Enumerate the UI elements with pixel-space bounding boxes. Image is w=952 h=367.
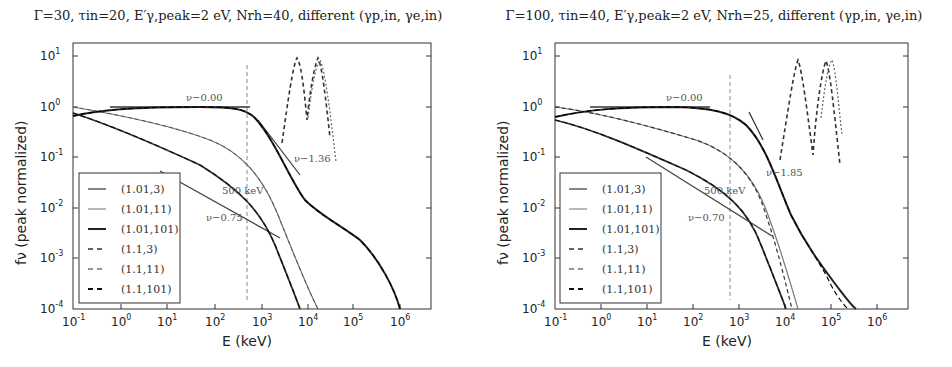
right-ann-500kev: 500 keV — [704, 185, 746, 196]
left-x-ticks: 10-1 100 101 102 103 104 105 106 — [62, 313, 410, 329]
left-legend: (1.01,3) (1.01,11) (1.01,101) (1.1,3) (1… — [79, 173, 180, 303]
right-x-axis-label: E (keV) — [702, 333, 752, 349]
svg-text:100: 100 — [522, 98, 542, 114]
left-x-axis-label: E (keV) — [222, 333, 272, 349]
svg-text:10-1: 10-1 — [544, 313, 567, 329]
svg-text:105: 105 — [821, 313, 841, 329]
svg-text:10-4: 10-4 — [40, 300, 63, 316]
svg-text:(1.1,3): (1.1,3) — [121, 243, 158, 256]
svg-text:(1.1,101): (1.1,101) — [121, 283, 172, 296]
left-y-axis-label: fν (peak normalized) — [13, 120, 29, 265]
left-chart-panel: Γ=30, τin=20, E′γ,peak=2 eV, Nrh=40, dif… — [0, 0, 476, 367]
svg-text:(1.01,101): (1.01,101) — [602, 223, 660, 236]
svg-text:101: 101 — [522, 47, 542, 63]
svg-text:(1.1,11): (1.1,11) — [121, 263, 165, 276]
svg-text:10-3: 10-3 — [40, 249, 63, 265]
left-ann-mid: ν−0.75 — [206, 212, 243, 223]
svg-text:(1.01,11): (1.01,11) — [121, 203, 172, 216]
svg-text:106: 106 — [867, 313, 887, 329]
svg-text:101: 101 — [637, 313, 657, 329]
svg-text:10-1: 10-1 — [62, 313, 85, 329]
svg-text:10-2: 10-2 — [522, 199, 545, 215]
right-y-axis-label: fν (peak normalized) — [495, 120, 511, 265]
svg-text:103: 103 — [252, 313, 272, 329]
svg-text:100: 100 — [40, 98, 60, 114]
svg-text:101: 101 — [157, 313, 177, 329]
svg-text:(1.01,3): (1.01,3) — [602, 183, 646, 196]
right-chart-svg: 101 100 10-1 10-2 10-3 10-4 10-1 100 101… — [476, 0, 952, 367]
svg-text:10-3: 10-3 — [522, 249, 545, 265]
svg-text:101: 101 — [40, 47, 60, 63]
svg-text:(1.01,3): (1.01,3) — [121, 183, 165, 196]
svg-text:104: 104 — [298, 313, 318, 329]
svg-text:100: 100 — [111, 313, 131, 329]
left-ann-500kev: 500 keV — [222, 185, 264, 196]
svg-text:(1.1,11): (1.1,11) — [602, 263, 646, 276]
right-chart-panel: Γ=100, τin=40, E′γ,peak=2 eV, Nrh=25, di… — [476, 0, 952, 367]
left-ann-flat: ν−0.00 — [186, 92, 223, 103]
right-legend: (1.01,3) (1.01,11) (1.01,101) (1.1,3) (1… — [560, 173, 661, 303]
svg-text:(1.01,11): (1.01,11) — [602, 203, 653, 216]
svg-text:103: 103 — [729, 313, 749, 329]
left-chart-svg: 101 100 10-1 10-2 10-3 10-4 10-1 100 101… — [0, 0, 476, 367]
svg-text:100: 100 — [591, 313, 611, 329]
right-ann-mid: ν−0.70 — [688, 212, 725, 223]
svg-text:102: 102 — [205, 313, 225, 329]
left-y-ticks: 101 100 10-1 10-2 10-3 10-4 — [40, 47, 63, 316]
svg-text:(1.1,3): (1.1,3) — [602, 243, 639, 256]
svg-text:105: 105 — [343, 313, 363, 329]
svg-text:(1.01,101): (1.01,101) — [121, 223, 179, 236]
svg-text:106: 106 — [390, 313, 410, 329]
svg-text:10-4: 10-4 — [522, 300, 545, 316]
right-ann-steep: ν−1.85 — [766, 167, 803, 178]
right-ann-flat: ν−0.00 — [666, 92, 703, 103]
left-ann-steep: ν−1.36 — [294, 153, 331, 164]
svg-text:(1.1,101): (1.1,101) — [602, 283, 653, 296]
svg-text:10-1: 10-1 — [40, 148, 63, 164]
svg-text:10-2: 10-2 — [40, 199, 63, 215]
svg-text:104: 104 — [775, 313, 795, 329]
svg-text:10-1: 10-1 — [522, 148, 545, 164]
svg-text:102: 102 — [683, 313, 703, 329]
